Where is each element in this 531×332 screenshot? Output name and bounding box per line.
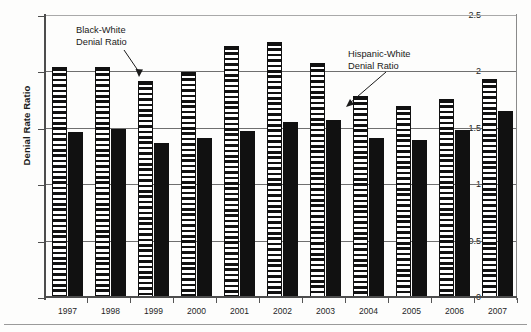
figure-bottom-rule <box>4 324 527 325</box>
arrow-line-hispanic-white <box>350 72 386 103</box>
arrow-line-black-white <box>124 50 139 72</box>
arrow-head-black-white <box>136 69 144 77</box>
annotation-arrows <box>0 0 531 332</box>
chart-figure: Denial Rate Ratio 00.511.522.5 199719981… <box>0 0 531 332</box>
